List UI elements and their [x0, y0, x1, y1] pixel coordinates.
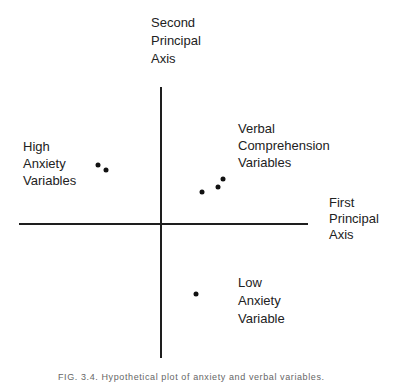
- second-principal-axis-line: [160, 87, 162, 358]
- label-line: Axis: [151, 50, 201, 68]
- label-line: Principal: [329, 211, 379, 227]
- label-line: Variable: [238, 310, 285, 328]
- low-anxiety-point: [194, 292, 199, 297]
- label-line: Comprehension: [238, 137, 330, 154]
- label-line: Anxiety: [23, 155, 76, 172]
- high-anxiety-point: [96, 163, 101, 168]
- verbal-comprehension-point: [221, 177, 226, 182]
- low-anxiety-label: Low Anxiety Variable: [238, 274, 285, 328]
- label-line: First: [329, 195, 379, 211]
- second-axis-label: Second Principal Axis: [151, 14, 201, 68]
- label-line: Anxiety: [238, 292, 285, 310]
- high-anxiety-point: [104, 168, 109, 173]
- label-line: Axis: [329, 227, 379, 243]
- figure-caption: FIG. 3.4. Hypothetical plot of anxiety a…: [58, 371, 325, 383]
- label-line: Second: [151, 14, 201, 32]
- label-line: Verbal: [238, 120, 330, 137]
- verbal-comprehension-label: Verbal Comprehension Variables: [238, 120, 330, 171]
- first-axis-label: First Principal Axis: [329, 195, 379, 243]
- verbal-comprehension-point: [216, 185, 221, 190]
- high-anxiety-label: High Anxiety Variables: [23, 138, 76, 189]
- label-line: High: [23, 138, 76, 155]
- label-line: Principal: [151, 32, 201, 50]
- label-line: Variables: [238, 154, 330, 171]
- label-line: Low: [238, 274, 285, 292]
- label-line: Variables: [23, 172, 76, 189]
- verbal-comprehension-point: [200, 190, 205, 195]
- first-principal-axis-line: [19, 223, 308, 225]
